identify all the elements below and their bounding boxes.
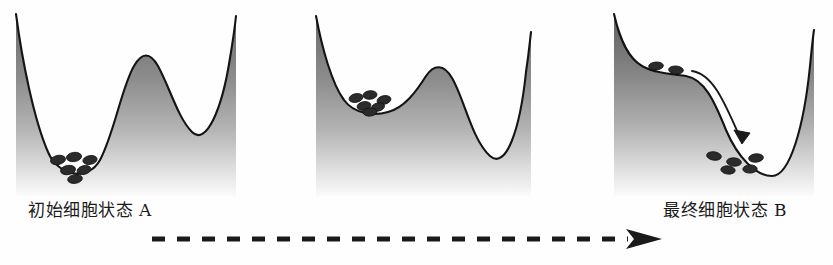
progression-arrow-head [626,229,662,249]
caption-initial-state: 初始细胞状态 A [28,196,152,221]
flow-caption [230,256,610,265]
landscape-b-svg [310,0,560,230]
panel-intermediate-landscape [310,0,560,230]
hill-fill-c [614,14,814,200]
progression-arrow-svg [150,228,670,254]
caption-final-state: 最终细胞状态 B [663,196,787,221]
progression-arrow [150,228,670,254]
hill-fill-b [316,16,531,200]
hill-fill-a [16,14,236,200]
figure-canvas: 初始细胞状态 A 最终细胞状态 B [0,0,833,265]
